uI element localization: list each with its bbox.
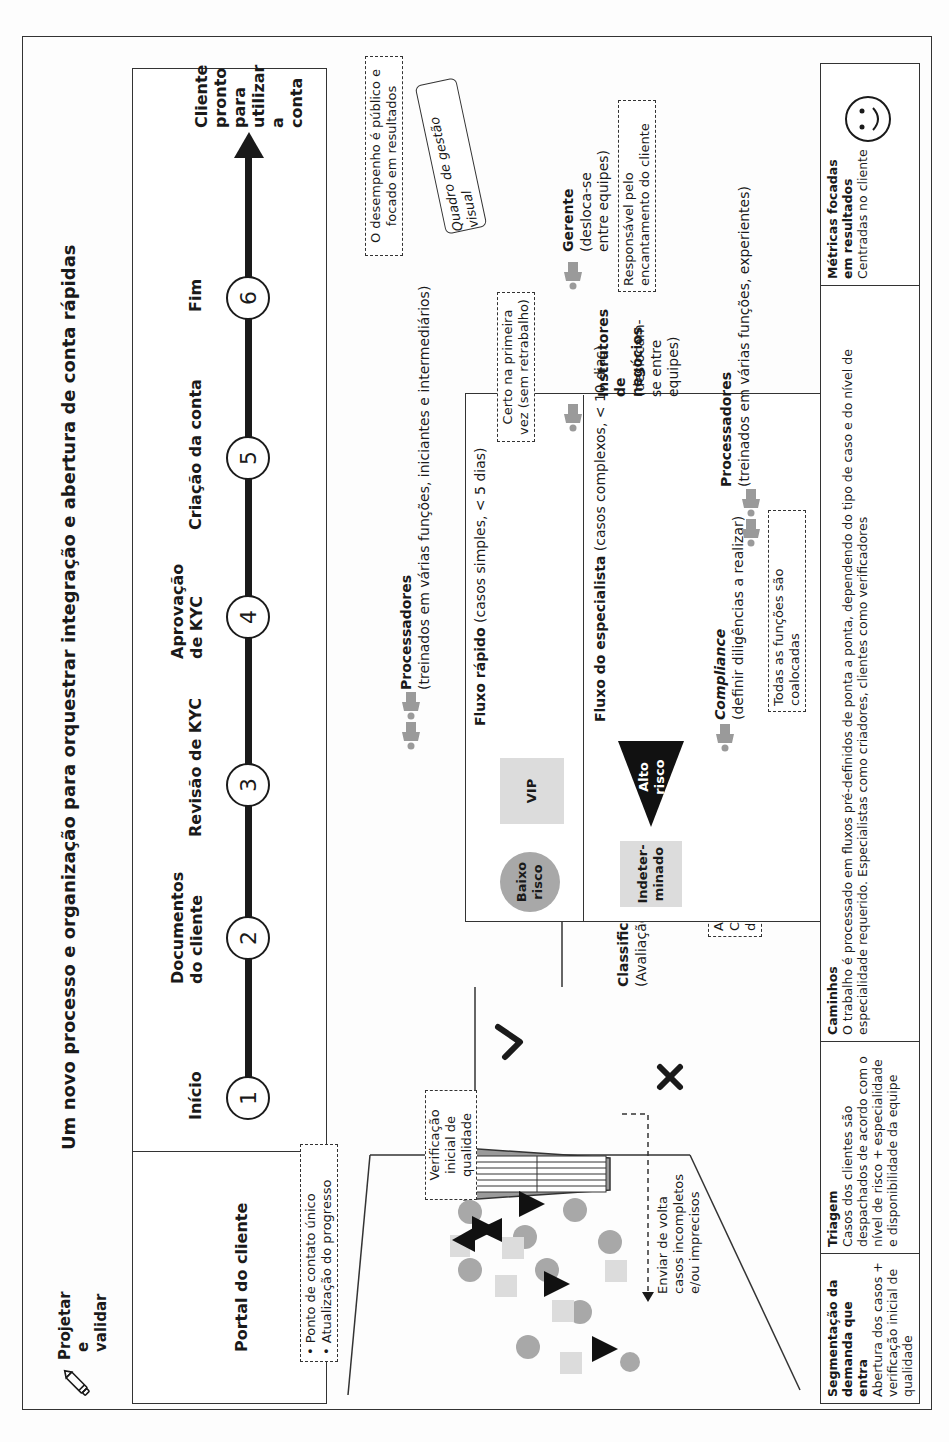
diagram-canvas: Projetar e validar Um novo processo e or… <box>0 0 949 1442</box>
legend-table: Segmentação da demanda que entra Abertur… <box>820 63 920 1404</box>
check-icon <box>495 1027 525 1057</box>
first-time-note: Certo na primeira vez (sem retrabalho) <box>497 292 535 442</box>
smiley-icon <box>843 94 893 144</box>
compliance-title: Compliance <box>712 629 729 720</box>
processor-person-icon <box>738 517 764 547</box>
processor-person-icon <box>398 720 424 750</box>
vip-case: VIP <box>500 758 564 824</box>
low-risk-case: Baixo risco <box>500 852 560 912</box>
specialist-flow-label: Fluxo do especialista (casos complexos, … <box>592 346 609 722</box>
manager-note: Responsável pelo encantamento do cliente <box>618 100 656 292</box>
manager-subtitle: (desloca-se entre equipes) <box>578 142 612 252</box>
processors-top-title: Processadores <box>398 575 415 690</box>
performance-note: O desempenho é público e focado em resul… <box>365 56 403 256</box>
flows-divider <box>583 395 584 922</box>
legend-cell-metrics: Métricas focadas em resultados Centradas… <box>821 64 919 285</box>
manager-person-icon <box>560 260 586 290</box>
high-risk-label: Alto risco <box>636 757 668 797</box>
legend-cell-segmentation: Segmentação da demanda que entra Abertur… <box>821 1253 919 1403</box>
manager-title: Gerente <box>560 188 577 252</box>
compliance-person-icon <box>712 722 738 752</box>
undetermined-case: Indeter-minado <box>620 841 682 907</box>
instructor-person-icon <box>560 402 586 432</box>
processors-bottom-title: Processadores <box>718 372 735 487</box>
send-back-note: Enviar de volta casos incompletos e/ou i… <box>655 1164 703 1294</box>
instructors-subtitle: (deslocam-se entre equipes) <box>631 307 682 397</box>
colocated-note: Todas as funções são coalocadas <box>768 510 806 712</box>
legend-cell-paths: Caminhos O trabalho é processado em flux… <box>821 285 919 1041</box>
fast-flow-label: Fluxo rápido (casos simples, < 5 dias) <box>472 447 489 726</box>
legend-cell-triage: Triagem Casos dos clientes são despachad… <box>821 1041 919 1253</box>
processor-person-icon <box>398 690 424 720</box>
processors-bottom-subtitle: (treinados em várias funções, experiente… <box>736 186 753 487</box>
high-risk-case-markers <box>450 1182 640 1382</box>
processors-top-subtitle: (treinados em várias funções, iniciantes… <box>416 286 433 690</box>
processor-person-icon <box>738 487 764 517</box>
x-icon <box>657 1064 683 1090</box>
